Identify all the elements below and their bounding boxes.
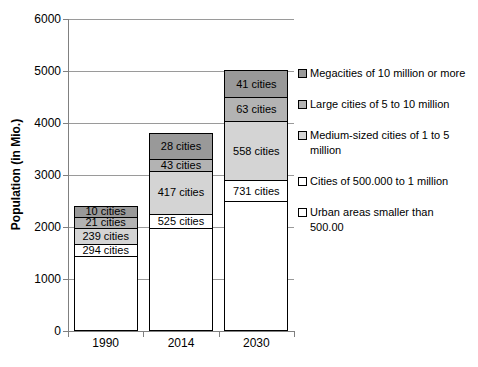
- bar-segment: 43 cities: [149, 159, 213, 172]
- x-axis-tick: [294, 332, 295, 337]
- x-tick-label: 2014: [151, 337, 211, 350]
- legend-label: Medium-sized cities of 1 to 5 million: [310, 128, 449, 158]
- y-tick-label: 4000: [19, 117, 61, 129]
- legend-label: Large cities of 5 to 10 million: [310, 97, 449, 112]
- bar-segment-label: 731 cities: [233, 186, 279, 197]
- bar-2030: 731 cities558 cities63 cities41 cities: [224, 19, 288, 331]
- stacked-bar-chart: Population (in Mio.) Megacities of 10 mi…: [0, 0, 478, 367]
- y-tick-label: 1000: [19, 273, 61, 285]
- bar-2014: 525 cities417 cities43 cities28 cities: [149, 19, 213, 331]
- bar-segment: 731 cities: [224, 180, 288, 202]
- bar-segment-label: 43 cities: [161, 160, 201, 171]
- bar-segment: [74, 256, 138, 331]
- y-tick-label: 6000: [19, 13, 61, 25]
- legend-item: Medium-sized cities of 1 to 5 million: [298, 128, 478, 158]
- bar-segment-label: 417 cities: [158, 187, 204, 198]
- bar-segment: 10 cities: [74, 206, 138, 217]
- legend-item: Large cities of 5 to 10 million: [298, 97, 478, 112]
- bar-segment: 239 cities: [74, 228, 138, 246]
- y-tick-label: 0: [19, 325, 61, 337]
- legend-marker-icon: [298, 177, 307, 186]
- legend-item: Urban areas smaller than 500.00: [298, 205, 478, 235]
- bar-segment: [149, 228, 213, 331]
- legend-marker-icon: [298, 69, 307, 78]
- bar-segment-label: 525 cities: [158, 216, 204, 227]
- legend-marker-icon: [298, 131, 307, 140]
- bar-segment: 28 cities: [149, 133, 213, 159]
- x-tick-label: 2030: [226, 337, 286, 350]
- bar-segment-label: 10 cities: [85, 206, 125, 217]
- bar-segment-label: 28 cities: [161, 141, 201, 152]
- bar-segment: [224, 201, 288, 331]
- bar-segment-label: 239 cities: [82, 231, 128, 242]
- bar-segment: 41 cities: [224, 70, 288, 98]
- legend-item: Megacities of 10 million or more: [298, 66, 478, 81]
- legend-label: Cities of 500.000 to 1 million: [310, 174, 448, 189]
- bar-segment: 294 cities: [74, 244, 138, 256]
- x-axis-tick: [68, 332, 69, 337]
- bar-segment-label: 558 cities: [233, 146, 279, 157]
- x-axis-tick: [143, 332, 144, 337]
- x-tick-label: 1990: [76, 337, 136, 350]
- legend-marker-icon: [298, 208, 307, 217]
- bar-segment-label: 294 cities: [82, 245, 128, 256]
- legend-label: Megacities of 10 million or more: [310, 66, 465, 81]
- bar-segment-label: 21 cities: [85, 217, 125, 228]
- y-tick-label: 2000: [19, 221, 61, 233]
- bar-segment: 21 cities: [74, 217, 138, 229]
- bar-segment: 558 cities: [224, 121, 288, 181]
- bar-segment: 417 cities: [149, 171, 213, 215]
- y-tick-label: 3000: [19, 169, 61, 181]
- bar-1990: 294 cities239 cities21 cities10 cities: [74, 19, 138, 331]
- x-axis-line: [68, 331, 295, 332]
- bar-segment-label: 41 cities: [236, 79, 276, 90]
- bar-segment: 525 cities: [149, 214, 213, 230]
- y-tick-label: 5000: [19, 65, 61, 77]
- legend-item: Cities of 500.000 to 1 million: [298, 174, 478, 189]
- bar-segment: 63 cities: [224, 97, 288, 122]
- x-axis-tick: [219, 332, 220, 337]
- legend-label: Urban areas smaller than 500.00: [310, 205, 434, 235]
- legend: Megacities of 10 million or moreLarge ci…: [298, 66, 478, 251]
- legend-marker-icon: [298, 100, 307, 109]
- y-axis-line: [68, 19, 69, 331]
- bar-segment-label: 63 cities: [236, 104, 276, 115]
